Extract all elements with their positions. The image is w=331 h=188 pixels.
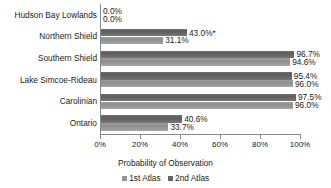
x-axis-tick — [300, 135, 301, 139]
x-axis-tick — [100, 135, 101, 139]
legend-label-1st-atlas: 1st Atlas — [129, 173, 160, 184]
x-axis-tick — [260, 135, 261, 139]
chart-category-row: Southern Shield96.7%94.6% — [0, 47, 331, 69]
chart-category-row: Ontario40.6%33.7% — [0, 112, 331, 134]
category-axis-label: Carolinian — [60, 96, 97, 106]
chart-category-row: Lake Simcoe-Rideau95.4%96.0% — [0, 69, 331, 91]
legend-swatch-icon-2nd-atlas — [168, 176, 173, 181]
bar-slot: 96.0% — [101, 102, 331, 109]
chart-category-row: Carolinian97.5%96.0% — [0, 90, 331, 112]
x-axis-tick-label: 100% — [280, 140, 320, 150]
bar-chart: Hudson Bay Lowlands0.0%0.0%Northern Shie… — [0, 0, 331, 188]
bar — [101, 102, 293, 109]
bar-group: 43.0%*31.1% — [101, 26, 331, 48]
bar — [101, 72, 292, 79]
bar-group: 95.4%96.0% — [101, 69, 331, 91]
x-axis-tick — [140, 135, 141, 139]
bar-slot: 43.0%* — [101, 29, 331, 36]
x-axis-tick-label: 40% — [160, 140, 200, 150]
x-axis-tick — [180, 135, 181, 139]
bar-slot: 96.0% — [101, 80, 331, 87]
legend-swatch-icon-1st-atlas — [122, 176, 127, 181]
legend-item-2nd-atlas: 2nd Atlas — [168, 173, 210, 184]
legend-item-1st-atlas: 1st Atlas — [122, 173, 161, 184]
x-axis-tick-label: 20% — [120, 140, 160, 150]
x-axis-tick — [220, 135, 221, 139]
bar — [101, 37, 163, 44]
bar-value-label: 96.0% — [293, 79, 319, 88]
bar — [101, 51, 294, 58]
bar-value-label: 33.7% — [168, 122, 194, 131]
bar-value-label: 96.0% — [293, 101, 319, 110]
category-axis-label: Southern Shield — [38, 53, 97, 63]
x-axis-title: Probability of Observation — [0, 158, 331, 169]
category-axis-label: Ontario — [70, 118, 97, 128]
chart-category-row: Northern Shield43.0%*31.1% — [0, 26, 331, 48]
bar — [101, 123, 168, 130]
legend-label-2nd-atlas: 2nd Atlas — [175, 173, 209, 184]
bar-slot: 94.6% — [101, 58, 331, 65]
category-axis-label: Lake Simcoe-Rideau — [20, 75, 97, 85]
x-axis-tick-label: 0% — [80, 140, 120, 150]
bar-group: 96.7%94.6% — [101, 47, 331, 69]
bar-slot: 33.7% — [101, 123, 331, 130]
chart-legend: 1st Atlas 2nd Atlas — [0, 173, 331, 184]
x-axis-tick-label: 60% — [200, 140, 240, 150]
bar-value-label: 31.1% — [163, 36, 189, 45]
bar-slot: 31.1% — [101, 37, 331, 44]
bar — [101, 58, 290, 65]
bar — [101, 80, 293, 87]
bar-value-label: 0.0% — [101, 14, 122, 23]
bar-slot: 40.6% — [101, 115, 331, 122]
bar-group: 97.5%96.0% — [101, 90, 331, 112]
x-axis-tick-label: 80% — [240, 140, 280, 150]
category-axis-label: Hudson Bay Lowlands — [14, 10, 97, 20]
bar-value-label: 94.6% — [290, 58, 316, 67]
category-axis-label: Northern Shield — [39, 31, 97, 41]
bar-slot: 0.0% — [101, 7, 331, 14]
bar — [101, 94, 296, 101]
bar-slot: 0.0% — [101, 15, 331, 22]
bar-group: 40.6%33.7% — [101, 112, 331, 134]
bar-group: 0.0%0.0% — [101, 4, 331, 26]
x-axis-line — [100, 134, 301, 135]
chart-category-row: Hudson Bay Lowlands0.0%0.0% — [0, 4, 331, 26]
